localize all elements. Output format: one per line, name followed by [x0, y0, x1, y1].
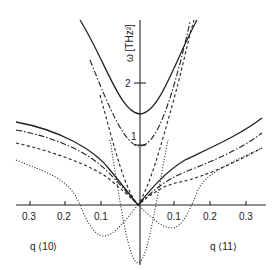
tick-labels: 0.3 0.2 0.1 0.1 0.2 0.3 2 1 q ⟨10⟩ q ⟨11…	[22, 24, 253, 252]
series-dashed	[16, 143, 262, 205]
series-dotted-center	[110, 140, 168, 263]
y-tick-1: 1	[131, 131, 137, 142]
x-tick-right-0: 0.1	[167, 211, 181, 222]
y-tick-2: 2	[125, 78, 131, 89]
y-axis-label: ω [THz²]	[124, 24, 135, 62]
series-solid	[16, 118, 262, 205]
series-dotted	[16, 148, 262, 236]
x-tick-left-1: 0.2	[57, 211, 71, 222]
dispersion-chart: 0.3 0.2 0.1 0.1 0.2 0.3 2 1 q ⟨10⟩ q ⟨11…	[0, 0, 276, 270]
series-dashed-branch	[100, 20, 194, 205]
x-tick-left-0: 0.3	[22, 211, 36, 222]
x-tick-right-1: 0.2	[203, 211, 217, 222]
series-solid-branch	[80, 20, 197, 114]
curves	[16, 20, 262, 263]
x-tick-left-2: 0.1	[94, 211, 108, 222]
x-tick-right-2: 0.3	[239, 211, 253, 222]
x-axis-label-right: q ⟨11⟩	[210, 241, 237, 252]
axes	[16, 20, 266, 265]
x-axis-label-left: q ⟨10⟩	[30, 241, 57, 252]
